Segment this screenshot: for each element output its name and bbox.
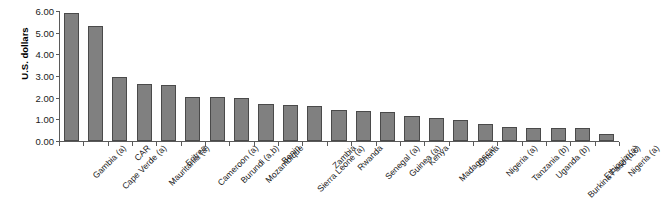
y-tick-mark [56, 54, 59, 55]
y-tick-label: 4.00 [36, 49, 55, 60]
bar [502, 127, 517, 141]
bar [575, 128, 590, 141]
bar [526, 128, 541, 141]
y-tick-mark [56, 76, 59, 77]
y-axis-title: U.S. dollars [19, 0, 30, 114]
y-tick-label: 6.00 [36, 6, 55, 17]
bar [331, 110, 346, 141]
x-tick-label-text: Gambia (a) [91, 143, 128, 180]
bar [64, 13, 79, 141]
bar [112, 77, 127, 141]
y-tick-label: 2.00 [36, 92, 55, 103]
bar [234, 98, 249, 141]
plot-area: 0.001.002.003.004.005.006.00 [59, 11, 619, 141]
y-tick-mark [56, 98, 59, 99]
bar [356, 111, 371, 141]
bar [161, 85, 176, 141]
y-tick-mark [56, 119, 59, 120]
bar [453, 120, 468, 141]
bar [429, 118, 444, 141]
bar [283, 105, 298, 141]
y-tick-label: 3.00 [36, 71, 55, 82]
y-axis-line [59, 11, 60, 141]
y-tick-label: 5.00 [36, 27, 55, 38]
x-tick-label: Gambia (a) [91, 143, 128, 180]
bar [137, 84, 152, 141]
y-tick-label: 0.00 [36, 136, 55, 147]
bar [599, 134, 614, 141]
bar [404, 116, 419, 141]
bar [380, 112, 395, 141]
bar [210, 97, 225, 141]
bar [478, 124, 493, 141]
x-axis-labels: Gambia (a)Cape Verde (a)CARMauritania (a… [59, 143, 623, 212]
bar [307, 106, 322, 141]
x-tick-label: Kenya [426, 143, 450, 167]
y-tick-mark [56, 33, 59, 34]
y-tick-label: 1.00 [36, 114, 55, 125]
y-tick-mark [56, 11, 59, 12]
bar [185, 97, 200, 141]
bar [258, 104, 273, 141]
bar [551, 128, 566, 141]
x-tick-label-text: Kenya [426, 143, 450, 167]
bar [88, 26, 103, 141]
